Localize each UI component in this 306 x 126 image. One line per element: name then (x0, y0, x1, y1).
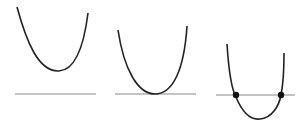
panel-one-root (115, 26, 196, 94)
parabola-curve (17, 7, 88, 71)
panel-no-roots (15, 7, 96, 94)
panel-two-roots (216, 44, 295, 119)
root-dot (278, 92, 284, 98)
parabola-curve (118, 26, 187, 94)
root-dot (233, 92, 239, 98)
parabola-curve (227, 44, 284, 119)
parabola-diagram (0, 0, 306, 126)
